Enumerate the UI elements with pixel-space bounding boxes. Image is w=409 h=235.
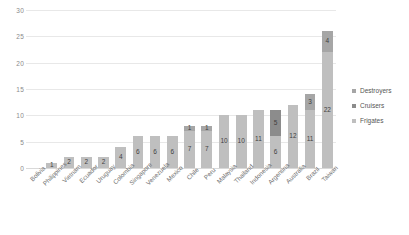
bar-taiwan[interactable]: 224 (322, 31, 333, 168)
x-label-slot: Vietnam (60, 170, 77, 232)
bar-slot[interactable]: 6 (147, 10, 164, 168)
bar-peru[interactable]: 71 (201, 126, 212, 168)
bar-segment-frigates[interactable]: 10 (219, 115, 230, 168)
bar-segment-cruisers[interactable]: 5 (270, 110, 281, 136)
bar-value-label: 10 (220, 138, 227, 145)
y-tick-label: 20 (2, 59, 24, 66)
bar-value-label: 2 (84, 159, 88, 166)
y-tick-label: 15 (2, 86, 24, 93)
plot-area: 1222466671711010116512113224 (26, 10, 336, 168)
bar-value-label: 6 (136, 149, 140, 156)
bar-chile[interactable]: 71 (184, 126, 195, 168)
bar-slot[interactable]: 2 (95, 10, 112, 168)
bar-singapore[interactable]: 6 (133, 136, 144, 168)
x-label-slot: Bolivia (26, 170, 43, 232)
legend-item-destroyers[interactable]: Destroyers (352, 88, 391, 95)
bar-slot[interactable]: 6 (164, 10, 181, 168)
bar-segment-frigates[interactable]: 7 (201, 131, 212, 168)
bar-value-label: 1 (205, 125, 209, 132)
legend-swatch-icon (352, 119, 356, 123)
bar-segment-destroyers[interactable]: 4 (322, 31, 333, 52)
bar-slot[interactable]: 71 (198, 10, 215, 168)
bar-value-label: 11 (307, 136, 314, 143)
bar-value-label: 3 (308, 99, 312, 106)
bar-segment-destroyers[interactable]: 1 (201, 126, 212, 131)
bar-slot[interactable]: 10 (215, 10, 232, 168)
legend-swatch-icon (352, 89, 356, 93)
x-label-slot: Indonesia (250, 170, 267, 232)
x-label-slot: Thailand (233, 170, 250, 232)
bar-segment-frigates[interactable]: 4 (115, 147, 126, 168)
bar-value-label: 2 (102, 159, 106, 166)
bar-group: 1222466671711010116512113224 (26, 10, 336, 168)
y-tick-label: 25 (2, 33, 24, 40)
bar-value-label: 12 (289, 133, 296, 140)
bar-value-label: 6 (274, 149, 278, 156)
bar-segment-frigates[interactable]: 11 (305, 110, 316, 168)
x-axis-labels: BoliviaPhilippinesVietnamEcuadorUruguayC… (26, 170, 336, 232)
bar-value-label: 1 (188, 125, 192, 132)
x-label-slot: Chile (181, 170, 198, 232)
bar-value-label: 6 (153, 149, 157, 156)
bar-value-label: 1 (50, 162, 54, 169)
x-label-slot: Philippines (43, 170, 60, 232)
bar-slot[interactable]: 6 (129, 10, 146, 168)
x-label-slot: Ecuador (78, 170, 95, 232)
bar-value-label: 7 (188, 146, 192, 153)
x-label-slot: Australia (284, 170, 301, 232)
bar-malaysia[interactable]: 10 (219, 115, 230, 168)
legend-swatch-icon (352, 104, 356, 108)
x-label-slot: Mexico (164, 170, 181, 232)
bar-brazil[interactable]: 113 (305, 94, 316, 168)
bar-slot[interactable]: 11 (250, 10, 267, 168)
bar-value-label: 10 (238, 138, 245, 145)
bar-slot[interactable]: 4 (112, 10, 129, 168)
legend-item-frigates[interactable]: Frigates (352, 118, 391, 125)
stacked-bar-chart: 051015202530 122246667171101011651211322… (0, 0, 409, 235)
bar-value-label: 7 (205, 146, 209, 153)
bar-slot[interactable]: 1 (43, 10, 60, 168)
bar-segment-frigates[interactable]: 11 (253, 110, 264, 168)
x-label-slot: Uruguay (95, 170, 112, 232)
legend-item-cruisers[interactable]: Cruisers (352, 103, 391, 110)
x-label-slot: Argentina (267, 170, 284, 232)
bar-segment-frigates[interactable]: 12 (288, 105, 299, 168)
legend-label: Cruisers (360, 103, 384, 110)
bar-slot[interactable]: 65 (267, 10, 284, 168)
bar-slot[interactable]: 113 (302, 10, 319, 168)
x-label-slot: Brazil (302, 170, 319, 232)
bar-value-label: 4 (326, 38, 330, 45)
bar-segment-frigates[interactable]: 22 (322, 52, 333, 168)
bar-slot[interactable]: 12 (284, 10, 301, 168)
x-label-slot: Singapore (129, 170, 146, 232)
bar-value-label: 6 (171, 149, 175, 156)
x-label-slot: Colombia (112, 170, 129, 232)
bar-indonesia[interactable]: 11 (253, 110, 264, 168)
x-label-slot: Venezuela (147, 170, 164, 232)
bar-value-label: 5 (274, 120, 278, 127)
bar-australia[interactable]: 12 (288, 105, 299, 168)
bar-thailand[interactable]: 10 (236, 115, 247, 168)
bar-value-label: 22 (324, 107, 331, 114)
bar-segment-frigates[interactable]: 6 (270, 136, 281, 168)
bar-slot[interactable]: 2 (78, 10, 95, 168)
x-label-slot: Peru (198, 170, 215, 232)
y-tick-label: 10 (2, 112, 24, 119)
bar-slot[interactable]: 2 (60, 10, 77, 168)
bar-segment-frigates[interactable]: 6 (133, 136, 144, 168)
bar-value-label: 4 (119, 154, 123, 161)
bar-segment-destroyers[interactable]: 3 (305, 94, 316, 110)
bar-value-label: 11 (255, 136, 262, 143)
bar-segment-frigates[interactable]: 7 (184, 131, 195, 168)
bar-segment-frigates[interactable]: 10 (236, 115, 247, 168)
bar-colombia[interactable]: 4 (115, 147, 126, 168)
bar-slot[interactable] (26, 10, 43, 168)
x-label-slot: Malaysia (215, 170, 232, 232)
bar-slot[interactable]: 10 (233, 10, 250, 168)
legend-label: Frigates (360, 118, 383, 125)
bar-slot[interactable]: 224 (319, 10, 336, 168)
bar-segment-destroyers[interactable]: 1 (184, 126, 195, 131)
bar-argentina[interactable]: 65 (270, 110, 281, 168)
bar-slot[interactable]: 71 (181, 10, 198, 168)
y-tick-label: 5 (2, 138, 24, 145)
